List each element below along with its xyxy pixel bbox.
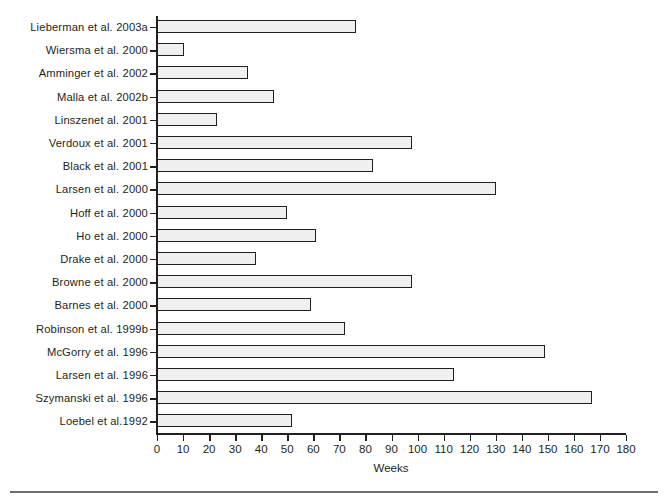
y-axis-tick <box>150 305 156 306</box>
bar <box>157 66 248 79</box>
bar-category-label: Wiersma et al. 2000 <box>0 39 148 62</box>
bar <box>157 275 412 288</box>
bar-row: Larsen et al. 1996 <box>0 364 668 387</box>
bar <box>157 206 287 219</box>
bar-category-label: Larsen et al. 2000 <box>0 178 148 201</box>
bar <box>157 159 373 172</box>
y-axis-tick <box>150 50 156 51</box>
bar <box>157 43 184 56</box>
bar-row: Browne et al. 2000 <box>0 271 668 294</box>
bar <box>157 90 274 103</box>
bar-row: Barnes et al. 2000 <box>0 294 668 317</box>
y-axis-tick <box>150 375 156 376</box>
bar-category-label: Drake et al. 2000 <box>0 248 148 271</box>
bar-row: Loebel et al.1992 <box>0 410 668 433</box>
figure-container: Lieberman et al. 2003aWiersma et al. 200… <box>0 0 668 503</box>
y-axis-tick <box>150 236 156 237</box>
bar <box>157 252 256 265</box>
bar-category-label: Szymanski et al. 1996 <box>0 387 148 410</box>
bar <box>157 391 592 404</box>
bar-category-label: Hoff et al. 2000 <box>0 202 148 225</box>
bar-row: Robinson et al. 1999b <box>0 318 668 341</box>
bar <box>157 136 412 149</box>
bar-category-label: Browne et al. 2000 <box>0 271 148 294</box>
y-axis-tick <box>150 97 156 98</box>
bar-category-label: Amminger et al. 2002 <box>0 62 148 85</box>
bar-row: Malla et al. 2002b <box>0 86 668 109</box>
bar-category-label: Malla et al. 2002b <box>0 86 148 109</box>
bar <box>157 298 311 311</box>
y-axis-tick <box>150 282 156 283</box>
bar <box>157 229 316 242</box>
y-axis-tick <box>150 213 156 214</box>
bar-category-label: McGorry et al. 1996 <box>0 341 148 364</box>
bar <box>157 322 345 335</box>
bar-chart-plot-area: Lieberman et al. 2003aWiersma et al. 200… <box>0 0 668 460</box>
bar <box>157 414 292 427</box>
y-axis-tick <box>150 120 156 121</box>
y-axis-tick <box>150 73 156 74</box>
x-axis-tick-label: 180 <box>606 441 646 457</box>
y-axis-tick <box>150 166 156 167</box>
bar-category-label: Lieberman et al. 2003a <box>0 16 148 39</box>
bar-row: Larsen et al. 2000 <box>0 178 668 201</box>
y-axis-tick <box>150 329 156 330</box>
bar-row: Hoff et al. 2000 <box>0 202 668 225</box>
bar-row: Black et al. 2001 <box>0 155 668 178</box>
bar-category-label: Verdoux et al. 2001 <box>0 132 148 155</box>
y-axis-tick <box>150 352 156 353</box>
bar-row: Ho et al. 2000 <box>0 225 668 248</box>
x-axis-title: Weeks <box>156 462 626 474</box>
y-axis-tick <box>150 259 156 260</box>
bar-row: Wiersma et al. 2000 <box>0 39 668 62</box>
footer-divider <box>10 491 658 493</box>
bar <box>157 20 356 33</box>
y-axis-tick <box>150 143 156 144</box>
bar-category-label: Black et al. 2001 <box>0 155 148 178</box>
y-axis-tick <box>150 27 156 28</box>
bar-row: McGorry et al. 1996 <box>0 341 668 364</box>
bar <box>157 368 454 381</box>
bar-category-label: Robinson et al. 1999b <box>0 318 148 341</box>
y-axis-tick <box>150 421 156 422</box>
bar-row: Drake et al. 2000 <box>0 248 668 271</box>
bar-row: Amminger et al. 2002 <box>0 62 668 85</box>
bar-row: Linszenet al. 2001 <box>0 109 668 132</box>
bar-category-label: Barnes et al. 2000 <box>0 294 148 317</box>
bar-row: Szymanski et al. 1996 <box>0 387 668 410</box>
bar-row: Lieberman et al. 2003a <box>0 16 668 39</box>
bar-category-label: Larsen et al. 1996 <box>0 364 148 387</box>
bar-category-label: Ho et al. 2000 <box>0 225 148 248</box>
bar <box>157 345 545 358</box>
bar-category-label: Loebel et al.1992 <box>0 410 148 433</box>
bar <box>157 113 217 126</box>
bar <box>157 182 496 195</box>
bar-row: Verdoux et al. 2001 <box>0 132 668 155</box>
y-axis-tick <box>150 398 156 399</box>
bar-category-label: Linszenet al. 2001 <box>0 109 148 132</box>
y-axis-tick <box>150 189 156 190</box>
